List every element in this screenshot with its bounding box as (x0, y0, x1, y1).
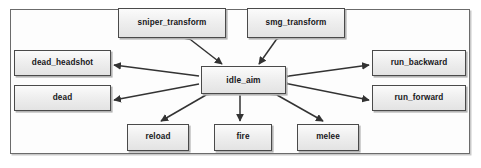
state-node-label: run_forward (395, 94, 444, 102)
state-node-label: sniper_transform (138, 19, 207, 27)
state-node-idle_aim[interactable]: idle_aim (201, 66, 286, 94)
state-node-label: run_backward (391, 59, 448, 67)
state-node-run_forward[interactable]: run_forward (372, 85, 466, 111)
diagram-canvas: sniper_transformsmg_transformdead_headsh… (0, 0, 481, 168)
state-node-run_backward[interactable]: run_backward (372, 50, 466, 76)
state-node-label: dead_headshot (32, 59, 93, 67)
state-node-sniper_transform[interactable]: sniper_transform (118, 8, 226, 38)
state-node-melee[interactable]: melee (297, 124, 359, 151)
state-node-label: smg_transform (266, 19, 327, 27)
state-node-label: fire (236, 133, 249, 141)
state-node-fire[interactable]: fire (214, 124, 272, 151)
state-node-smg_transform[interactable]: smg_transform (247, 8, 345, 38)
state-node-dead[interactable]: dead (14, 85, 111, 111)
state-node-dead_headshot[interactable]: dead_headshot (14, 50, 111, 76)
state-node-label: melee (316, 133, 340, 141)
state-node-label: dead (53, 94, 73, 102)
state-node-label: idle_aim (226, 76, 260, 84)
state-node-reload[interactable]: reload (127, 124, 189, 151)
state-node-label: reload (145, 133, 170, 141)
